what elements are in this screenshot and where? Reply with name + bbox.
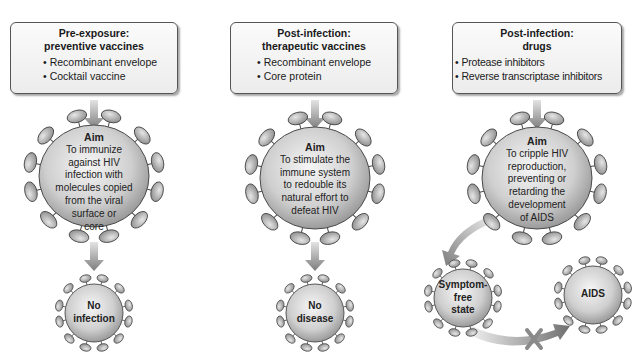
outcome-line: infection <box>64 313 124 326</box>
outcome-aids: AIDS <box>563 288 623 301</box>
box-title-line: Pre-exposure: <box>17 27 171 40</box>
aim-line: from the viral <box>39 195 149 208</box>
aim-line: retarding the <box>482 186 592 199</box>
aim-line: of AIDS <box>482 212 592 225</box>
arrow-down-icon <box>84 100 547 129</box>
outcome-line: disease <box>285 313 345 326</box>
list-item: Recombinant envelope <box>257 55 391 69</box>
aim-line: core <box>39 221 149 234</box>
aim-line: To stimulate the <box>258 154 372 167</box>
box-title-line: Post-infection: <box>455 27 619 40</box>
aim-line: natural effort to <box>258 192 372 205</box>
therapeutic-vaccines-box: Post-infection: therapeutic vaccines Rec… <box>230 22 398 94</box>
outcome-symptom-free-state: Symptom- free state <box>431 279 495 317</box>
box-title: Pre-exposure: preventive vaccines <box>17 27 171 53</box>
aim-preventive: Aim To immunize against HIV infection wi… <box>39 131 149 233</box>
outcome-line: state <box>431 304 495 317</box>
aim-line: infection with <box>39 169 149 182</box>
box-item-list: Protease inhibitors Reverse transcriptas… <box>455 55 619 83</box>
outcome-line: No <box>64 300 124 313</box>
aim-line: To immunize <box>39 144 149 157</box>
list-item: Reverse transcriptase inhibitors <box>455 69 619 83</box>
aim-label: Aim <box>39 131 149 144</box>
aim-line: against HIV <box>39 157 149 170</box>
aim-drugs: Aim To cripple HIV reproduction, prevent… <box>482 135 592 225</box>
aim-line: immune system <box>258 167 372 180</box>
aim-line: to redouble its <box>258 179 372 192</box>
box-title-line: preventive vaccines <box>17 40 171 53</box>
box-title-line: therapeutic vaccines <box>237 40 391 53</box>
aim-line: development <box>482 199 592 212</box>
drugs-box: Post-infection: drugs Protease inhibitor… <box>452 22 622 94</box>
outcome-no-infection: No infection <box>64 300 124 325</box>
outcome-line: free <box>431 292 495 305</box>
aim-label: Aim <box>258 141 372 154</box>
preventive-vaccines-box: Pre-exposure: preventive vaccines Recomb… <box>10 22 178 94</box>
box-item-list: Recombinant envelope Cocktail vaccine <box>17 55 171 83</box>
outcome-line: No <box>285 300 345 313</box>
aim-label: Aim <box>482 135 592 148</box>
box-title-line: drugs <box>455 40 619 53</box>
aim-line: defeat HIV <box>258 205 372 218</box>
outcome-no-disease: No disease <box>285 300 345 325</box>
aim-line: surface or <box>39 208 149 221</box>
aim-line: preventing or <box>482 173 592 186</box>
box-title: Post-infection: drugs <box>455 27 619 53</box>
box-title: Post-infection: therapeutic vaccines <box>237 27 391 53</box>
arrow-down-icon <box>84 242 325 271</box>
list-item: Protease inhibitors <box>455 55 619 69</box>
aim-line: reproduction, <box>482 161 592 174</box>
aim-therapeutic: Aim To stimulate the immune system to re… <box>258 141 372 218</box>
aim-line: molecules copied <box>39 182 149 195</box>
list-item: Cocktail vaccine <box>43 69 171 83</box>
aim-line: To cripple HIV <box>482 148 592 161</box>
outcome-line: AIDS <box>563 288 623 301</box>
box-item-list: Recombinant envelope Core protein <box>237 55 391 83</box>
box-title-line: Post-infection: <box>237 27 391 40</box>
list-item: Core protein <box>257 69 391 83</box>
list-item: Recombinant envelope <box>43 55 171 69</box>
outcome-line: Symptom- <box>431 279 495 292</box>
